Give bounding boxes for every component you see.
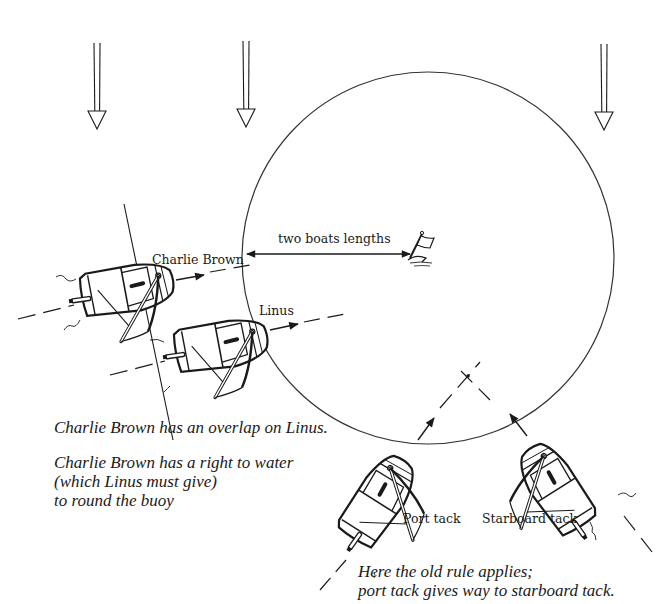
boat-charlie-brown xyxy=(65,260,180,348)
wind-arrow-icon xyxy=(237,41,255,127)
left-caption: Charlie Brown has an overlap on Linus. C… xyxy=(54,418,328,510)
course-line xyxy=(624,516,652,552)
caption-line: Charlie Brown has an overlap on Linus. xyxy=(54,418,328,437)
caption-line: to round the buoy xyxy=(54,491,328,510)
boat-label-port-tack: Port tack xyxy=(403,513,460,526)
boat-label-charlie-brown: Charlie Brown xyxy=(152,254,244,267)
caption-line: port tack gives way to starboard tack. xyxy=(358,581,615,600)
wind-arrow-icon xyxy=(88,43,106,129)
boat-label-linus: Linus xyxy=(259,305,294,318)
boat-linus xyxy=(159,316,274,404)
flag-buoy-icon xyxy=(408,231,434,266)
course-line xyxy=(304,314,345,322)
right-caption: Here the old rule applies; port tack giv… xyxy=(358,562,615,600)
heading-arrow xyxy=(270,324,298,330)
boat-label-starboard-tack: Starboard tack xyxy=(482,513,577,526)
caption-line: Charlie Brown has a right to water xyxy=(54,453,328,472)
zone-circle xyxy=(242,72,614,444)
course-line xyxy=(18,305,74,319)
course-line xyxy=(320,560,346,590)
crossing-point xyxy=(466,374,470,378)
course-line xyxy=(440,362,480,408)
caption-line: (which Linus must give) xyxy=(54,472,328,491)
measure-label: two boats lengths xyxy=(278,233,391,246)
heading-arrow xyxy=(418,418,434,440)
heading-arrow xyxy=(176,275,204,280)
boat-starboard-tack xyxy=(487,437,608,566)
wind-arrow-icon xyxy=(595,44,613,130)
caption-line: Here the old rule applies; xyxy=(358,562,615,581)
